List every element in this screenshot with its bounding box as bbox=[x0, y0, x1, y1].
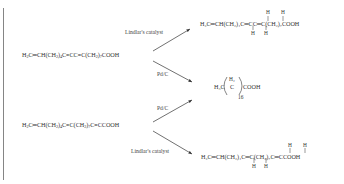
h-atom: H bbox=[264, 30, 268, 36]
catalyst-label-pdc-top: Pd/C bbox=[157, 71, 168, 77]
catalyst-label-pdc-bottom: Pd/C bbox=[157, 105, 168, 111]
product-top-formula: H₂C═CH(CH₂)₄C═CC═C(CH₂)₇COOH bbox=[200, 20, 299, 27]
h-atom: H bbox=[281, 9, 285, 15]
h-atom: H bbox=[251, 30, 255, 36]
h-atom: H bbox=[266, 9, 270, 15]
product-middle-left: H₃C bbox=[214, 83, 225, 90]
product-middle-right: COOH bbox=[243, 83, 260, 90]
catalyst-label-lindlar-bottom: Lindlar's catalyst bbox=[131, 148, 169, 154]
h-atom: H bbox=[264, 163, 268, 169]
product-middle-center: C bbox=[230, 83, 234, 90]
h-atom: H bbox=[303, 142, 307, 148]
h-atom: H bbox=[252, 163, 256, 169]
reactant-bottom-formula: H2C═CH(CH2)4C≡C(CH2)7C≡CCOOH bbox=[22, 121, 119, 129]
reactant-top-formula: H2C═CH(CH2)4C≡CC≡C(CH2)7COOH bbox=[22, 51, 119, 59]
h-atom: H bbox=[288, 142, 292, 148]
product-bottom-formula: H₂C═CH(CH₂)₄C═C(CH₂)₇C═CCOOH bbox=[201, 153, 300, 160]
product-middle-subscript: 16 bbox=[238, 94, 243, 100]
product-middle-h2: H₂ bbox=[229, 76, 235, 82]
catalyst-label-lindlar-top: Lindlar's catalyst bbox=[125, 29, 163, 35]
